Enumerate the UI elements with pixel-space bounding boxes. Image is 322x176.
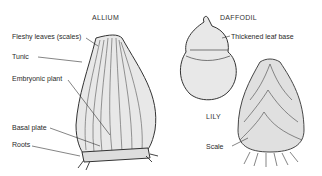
label-fleshy-leaves: Fleshy leaves (scales) xyxy=(12,33,81,41)
label-embryonic-plant: Embryonic plant xyxy=(12,75,62,83)
label-scale: Scale xyxy=(206,143,224,151)
allium-title: ALLIUM xyxy=(92,14,119,21)
label-tunic: Tunic xyxy=(12,53,29,61)
label-roots: Roots xyxy=(12,141,30,149)
lily-title: LILY xyxy=(206,113,221,120)
daffodil-title: DAFFODIL xyxy=(220,14,257,21)
allium-bulb-drawing xyxy=(76,35,158,170)
lily-bulb-drawing xyxy=(238,59,304,167)
daffodil-bulb-drawing xyxy=(180,16,236,99)
label-thickened-leaf-base: Thickened leaf base xyxy=(231,33,294,41)
bulb-illustrations xyxy=(0,0,322,176)
bulb-diagram: ALLIUM Fleshy leaves (scales) Tunic Embr… xyxy=(0,0,322,176)
label-basal-plate: Basal plate xyxy=(12,124,47,132)
